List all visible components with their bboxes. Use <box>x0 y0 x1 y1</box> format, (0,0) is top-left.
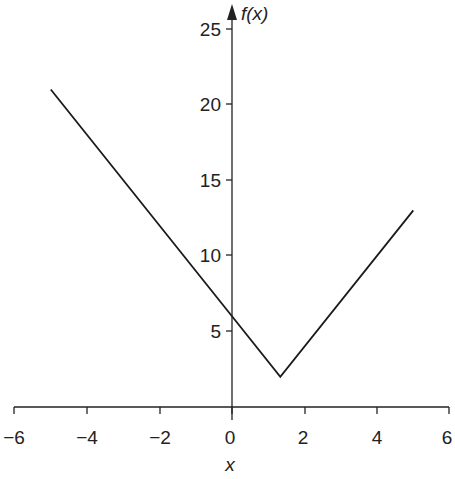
y-tick-label: 25 <box>200 19 221 40</box>
y-tick-label: 10 <box>200 245 221 266</box>
function-plot: −6 −4 −2 0 2 4 6 5 10 15 20 25 f(x) x <box>0 0 455 479</box>
y-tick-label: 15 <box>200 170 221 191</box>
x-ticks <box>14 407 449 414</box>
x-tick-label: −6 <box>3 427 25 448</box>
x-tick-label: 4 <box>372 427 383 448</box>
x-tick-label: 6 <box>442 427 453 448</box>
y-tick-label: 5 <box>210 321 221 342</box>
y-tick-label: 20 <box>200 94 221 115</box>
y-tick-labels: 5 10 15 20 25 <box>200 19 221 342</box>
x-axis-title: x <box>224 454 236 475</box>
x-tick-label: 0 <box>225 427 236 448</box>
x-tick-label: −2 <box>149 427 171 448</box>
x-tick-labels: −6 −4 −2 0 2 4 6 <box>3 427 452 448</box>
y-axis-title: f(x) <box>241 3 268 24</box>
y-ticks <box>226 29 232 331</box>
x-tick-label: 2 <box>298 427 309 448</box>
y-axis-arrow-icon <box>227 4 237 20</box>
x-tick-label: −4 <box>76 427 98 448</box>
